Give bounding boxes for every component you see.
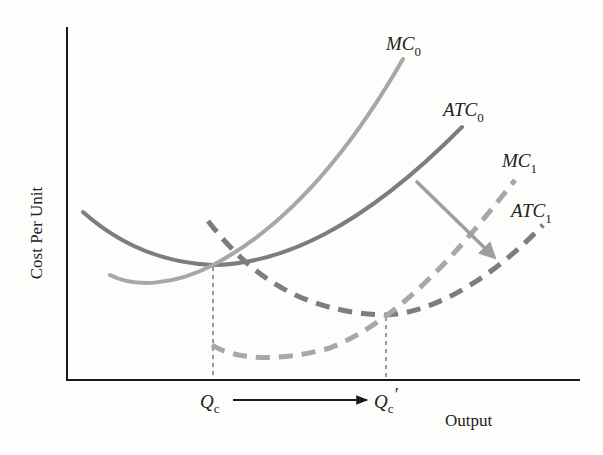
qc-prime-label: Qc′ — [374, 384, 399, 416]
y-axis-title: Cost Per Unit — [27, 186, 46, 279]
atc1-label: ATC1 — [509, 200, 552, 226]
atc0-curve — [83, 127, 462, 265]
mc1-label: MC1 — [501, 150, 537, 176]
mc0-curve — [110, 59, 403, 283]
axes — [66, 27, 580, 381]
mc0-label: MC0 — [385, 33, 421, 59]
x-axis-title: Output — [445, 411, 493, 430]
cost-curves-figure: Cost Per Unit Output MC0 ATC0 MC1 ATC1 — [0, 0, 603, 455]
atc0-label: ATC0 — [441, 99, 484, 125]
qc-label: Qc — [200, 391, 220, 416]
